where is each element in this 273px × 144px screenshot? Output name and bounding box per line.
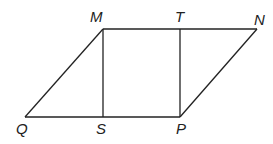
segment-qm (25, 29, 103, 117)
label-q: Q (16, 120, 28, 137)
label-s: S (96, 120, 106, 137)
segment-pn (180, 29, 257, 117)
label-p: P (176, 120, 186, 137)
label-n: N (254, 11, 265, 28)
parallelogram-diagram: M T N Q S P (0, 0, 273, 144)
label-m: M (90, 8, 103, 25)
label-t: T (175, 8, 186, 25)
